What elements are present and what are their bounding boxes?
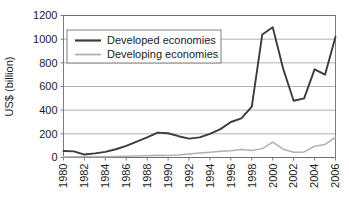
x-tick-label-2002: 2002 xyxy=(287,164,299,188)
x-tick-label-1996: 1996 xyxy=(225,164,237,188)
chart-container: 020040060080010001200 198019821984198619… xyxy=(0,0,349,209)
chart-legend: Developed economiesDeveloping economies xyxy=(67,30,221,63)
legend-label-developed-economies: Developed economies xyxy=(107,34,216,46)
y-tick-label-0: 0 xyxy=(51,151,57,163)
x-tick-label-1998: 1998 xyxy=(246,164,258,188)
x-tick-label-1984: 1984 xyxy=(99,164,111,188)
x-tick-label-1986: 1986 xyxy=(120,164,132,188)
legend-label-developing-economies: Developing economies xyxy=(107,48,219,60)
x-tick-label-1992: 1992 xyxy=(183,164,195,188)
x-tick-label-2004: 2004 xyxy=(308,164,320,188)
x-tick-label-2000: 2000 xyxy=(267,164,279,188)
x-tick-label-1988: 1988 xyxy=(141,164,153,188)
y-tick-label-800: 800 xyxy=(39,57,57,69)
y-tick-label-400: 400 xyxy=(39,104,57,116)
x-tick-label-1982: 1982 xyxy=(78,164,90,188)
y-axis-title: US$ (billion) xyxy=(3,57,15,117)
y-tick-label-200: 200 xyxy=(39,128,57,140)
x-tick-label-1994: 1994 xyxy=(204,164,216,188)
x-tick-label-1990: 1990 xyxy=(162,164,174,188)
y-axis-title-text: US$ (billion) xyxy=(3,57,15,117)
y-tick-label-1200: 1200 xyxy=(33,9,57,21)
x-tick-label-2006: 2006 xyxy=(329,164,341,188)
line-chart: 020040060080010001200 198019821984198619… xyxy=(0,0,349,209)
x-tick-label-1980: 1980 xyxy=(57,164,69,188)
y-tick-label-600: 600 xyxy=(39,80,57,92)
y-tick-label-1000: 1000 xyxy=(33,33,57,45)
